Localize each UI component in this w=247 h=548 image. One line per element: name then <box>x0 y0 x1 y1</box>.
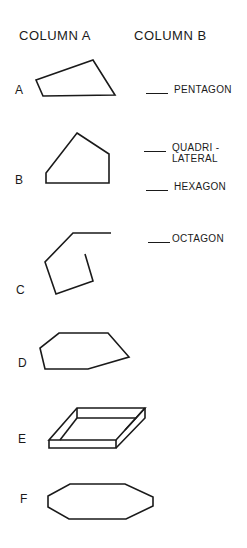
shape-b-pentagon-icon <box>46 133 109 183</box>
shape-a-quadrilateral-icon <box>36 60 115 96</box>
shape-f-octagon-icon <box>48 484 153 519</box>
shape-c-open-figure-icon <box>45 233 111 294</box>
shape-e-box-icon <box>49 408 145 448</box>
shape-d-hexagon-icon <box>40 333 129 369</box>
